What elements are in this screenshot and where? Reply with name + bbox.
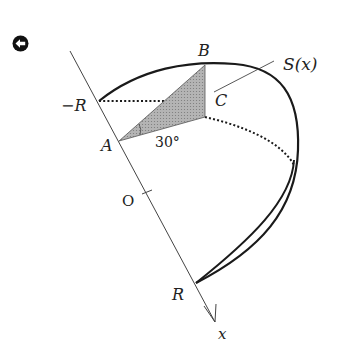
label-axis-x: x — [218, 325, 227, 342]
label-b: B — [197, 41, 210, 60]
label-a: A — [99, 136, 113, 155]
label-angle: 30° — [155, 134, 180, 150]
label-c: C — [215, 91, 227, 110]
solid-diagram: −R A B C 30° S(x) O R x — [0, 0, 341, 342]
label-neg-r: −R — [61, 96, 86, 115]
cross-section-triangle — [119, 65, 205, 141]
inner-curve — [196, 160, 294, 283]
label-area: S(x) — [283, 54, 318, 74]
label-origin: O — [122, 192, 134, 210]
origin-tick — [142, 190, 152, 194]
label-r: R — [171, 285, 184, 304]
